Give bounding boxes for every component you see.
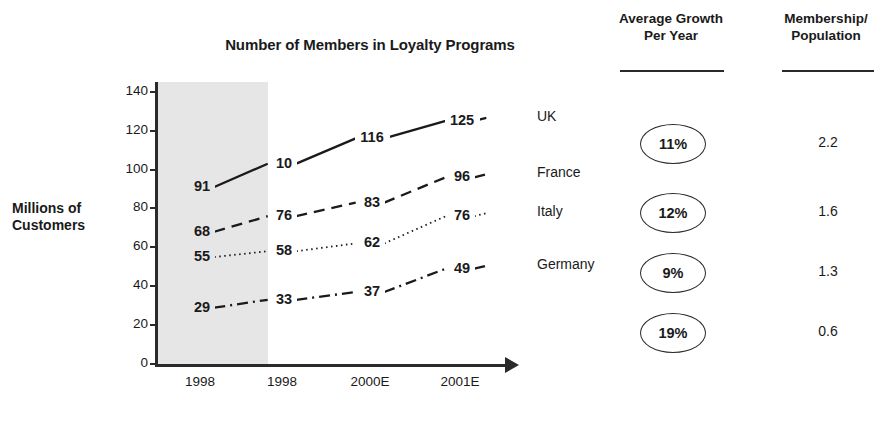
y-tick-label: 100 [108,161,148,176]
series-line-stub [474,266,486,269]
y-tick-label: 40 [108,277,148,292]
y-tick-label: 60 [108,238,148,253]
series-line-segment [296,203,355,217]
data-point-label: 10 [271,155,297,171]
y-tick-mark [150,285,156,287]
growth-header-rule [620,70,724,72]
series-name-italy: Italy [537,203,563,219]
ratio-value: 1.3 [782,263,874,279]
series-line-stub [474,213,486,216]
series-name-france: France [537,164,581,180]
x-tick-label: 1998 [155,374,245,389]
chart-canvas: Number of Members in Loyalty Programs Mi… [0,0,896,441]
series-line-segment [296,292,355,300]
series-line-segment [296,243,355,251]
ratio-header-line2: Population [762,27,890,44]
data-point-label: 91 [189,178,215,194]
x-tick-label: 1998 [237,374,327,389]
x-axis-arrow-icon [505,357,519,373]
y-tick-mark [150,91,156,93]
growth-oval: 9% [640,253,706,293]
y-tick-label: 20 [108,316,148,331]
series-name-germany: Germany [537,256,595,272]
series-line-segment [384,216,445,243]
series-line-segment [384,121,445,139]
data-point-label: 76 [449,207,475,223]
y-tick-label: 80 [108,199,148,214]
series-line-segment [384,177,445,202]
growth-header-line2: Per Year [597,27,745,44]
y-tick-mark [150,246,156,248]
x-tick-label: 2000E [325,374,415,389]
y-tick-mark [150,130,156,132]
series-line-stub [474,174,486,177]
growth-header-line1: Average Growth [597,10,745,27]
data-point-label: 116 [355,129,390,145]
y-tick-mark [150,363,156,365]
chart-title: Number of Members in Loyalty Programs [155,36,585,53]
data-point-label: 125 [445,112,480,128]
y-tick-mark [150,169,156,171]
growth-oval: 12% [640,193,706,233]
data-point-label: 55 [189,248,215,264]
x-axis-line [155,364,510,367]
ratio-column-header: Membership/ Population [762,10,890,44]
series-line-segment [384,269,445,292]
growth-column-header: Average Growth Per Year [597,10,745,44]
y-axis-title-line2: Customers [12,217,130,234]
data-point-label: 33 [271,291,297,307]
data-point-label: 76 [271,207,297,223]
data-point-label: 29 [189,299,215,315]
y-tick-label: 140 [108,83,148,98]
data-point-label: 96 [449,168,475,184]
data-point-label: 62 [359,234,385,250]
series-line-segment [296,138,355,163]
data-point-label: 83 [359,194,385,210]
y-axis-line [155,82,158,365]
y-tick-mark [150,207,156,209]
growth-oval: 19% [640,313,706,353]
ratio-value: 2.2 [782,134,874,150]
growth-oval: 11% [640,124,706,164]
data-point-label: 68 [189,223,215,239]
ratio-value: 0.6 [782,323,874,339]
y-tick-mark [150,324,156,326]
data-point-label: 37 [359,283,385,299]
data-point-label: 49 [449,260,475,276]
ratio-value: 1.6 [782,203,874,219]
data-point-label: 58 [271,242,297,258]
ratio-header-rule [782,70,874,72]
ratio-header-line1: Membership/ [762,10,890,27]
x-tick-label: 2001E [415,374,505,389]
series-name-uk: UK [537,108,556,124]
y-tick-label: 0 [108,355,148,370]
y-tick-label: 120 [108,122,148,137]
